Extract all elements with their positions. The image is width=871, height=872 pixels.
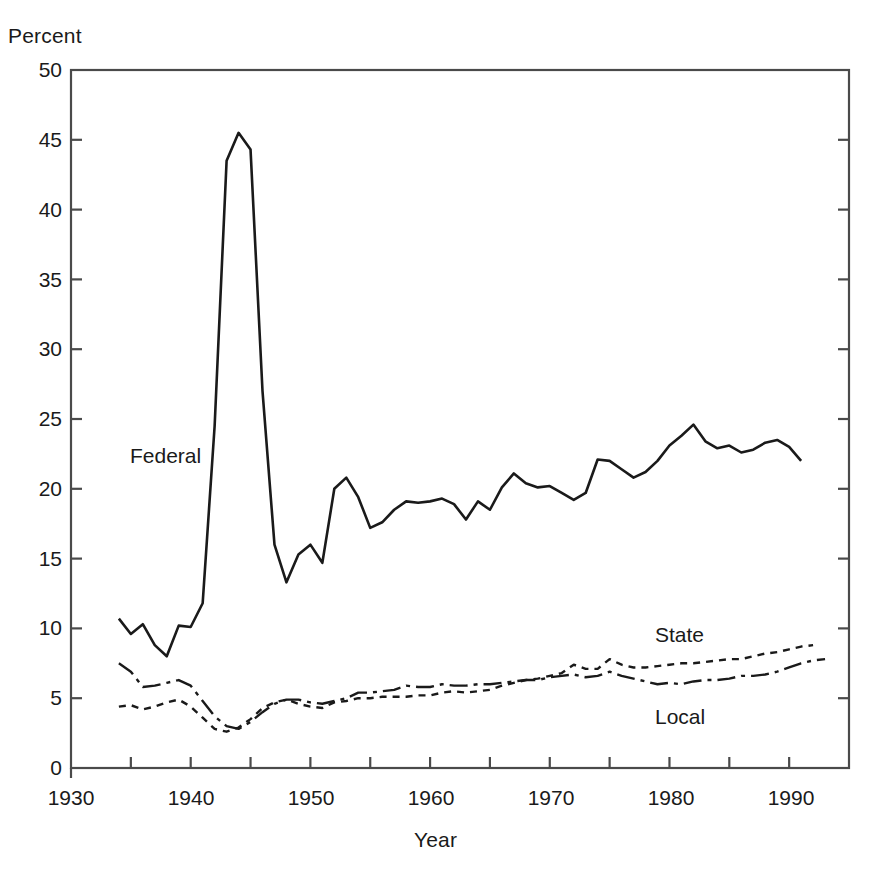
series-line-state xyxy=(119,645,813,732)
chart-figure: Percent Year 50 45 40 35 30 25 20 15 10 … xyxy=(0,0,871,872)
y-axis-ticks xyxy=(71,140,849,698)
series-line-local xyxy=(119,659,825,729)
frame-border xyxy=(71,70,849,768)
series-line-federal xyxy=(119,133,801,657)
plot-frame xyxy=(71,70,849,768)
series-lines xyxy=(119,133,825,732)
chart-plot-area xyxy=(0,0,871,872)
